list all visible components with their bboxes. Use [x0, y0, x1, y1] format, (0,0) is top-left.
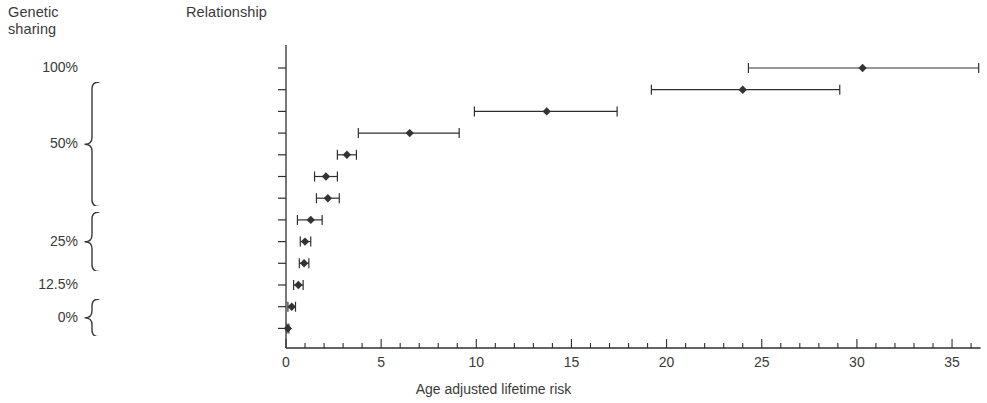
genetic-sharing-label-100: 100% — [42, 59, 78, 75]
forest-plot-figure: Genetic sharing Relationship MZ twinSibl… — [0, 0, 987, 403]
x-tick-label-0: 0 — [282, 354, 290, 370]
point-marker — [288, 303, 296, 311]
data-row — [288, 302, 296, 312]
point-marker — [322, 172, 330, 180]
data-row — [337, 150, 356, 160]
genetic-sharing-label-25: 25% — [50, 233, 78, 249]
point-marker — [543, 107, 551, 115]
point-marker — [858, 64, 866, 72]
point-marker — [739, 86, 747, 94]
x-tick-label-20: 20 — [659, 354, 675, 370]
data-row — [300, 237, 310, 247]
point-marker — [300, 259, 308, 267]
genetic-sharing-label-0: 0% — [58, 309, 78, 325]
brace-50 — [84, 82, 100, 207]
x-tick-label-15: 15 — [564, 354, 580, 370]
x-axis-title: Age adjusted lifetime risk — [0, 381, 987, 397]
data-row — [316, 193, 339, 203]
data-row — [294, 280, 304, 290]
point-marker — [294, 281, 302, 289]
x-tick-label-35: 35 — [944, 354, 960, 370]
data-row — [299, 258, 309, 268]
genetic-sharing-label-50: 50% — [50, 135, 78, 151]
point-marker — [324, 194, 332, 202]
data-row — [297, 215, 322, 225]
brace-0 — [84, 299, 100, 337]
x-tick-label-30: 30 — [849, 354, 865, 370]
point-marker — [307, 216, 315, 224]
point-marker — [284, 324, 292, 332]
x-tick-label-25: 25 — [754, 354, 770, 370]
data-row — [358, 128, 459, 138]
data-row — [315, 172, 338, 182]
point-marker — [406, 129, 414, 137]
data-row — [284, 323, 292, 333]
x-tick-label-5: 5 — [377, 354, 385, 370]
x-tick-label-10: 10 — [469, 354, 485, 370]
data-row — [748, 63, 978, 73]
point-marker — [343, 151, 351, 159]
genetic-sharing-label-12.5: 12.5% — [38, 276, 78, 292]
data-row — [651, 85, 839, 95]
brace-25 — [84, 212, 100, 271]
data-row — [474, 106, 617, 116]
point-marker — [301, 237, 309, 245]
